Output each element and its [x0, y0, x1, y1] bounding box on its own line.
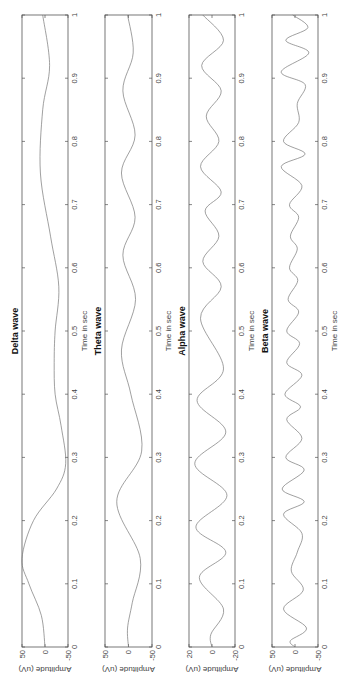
- waveform-trace: [117, 15, 142, 647]
- x-tick-label: 0.8: [320, 136, 329, 146]
- y-tick-label: 50: [101, 650, 110, 658]
- x-tick-label: 0.2: [237, 515, 246, 525]
- x-tick-label: 0: [320, 645, 329, 649]
- y-tick-label: 50: [268, 650, 277, 658]
- x-tick-label: 0.7: [320, 199, 329, 209]
- x-tick-label: 1: [154, 13, 163, 17]
- y-tick-label: -20: [231, 650, 240, 661]
- x-tick-label: 0.8: [154, 136, 163, 146]
- x-tick-label: 0.6: [320, 263, 329, 273]
- x-tick-label: 0.9: [237, 73, 246, 83]
- x-tick-label: 0.5: [154, 326, 163, 336]
- x-tick-label: 0.6: [154, 263, 163, 273]
- x-tick-label: 0.5: [70, 326, 79, 336]
- x-axis-label: Time in sec: [330, 311, 339, 352]
- x-tick-label: 0.5: [237, 326, 246, 336]
- x-tick-label: 0.9: [154, 73, 163, 83]
- panel-theta-wave: Time in sec Amplitude (uV) 00.10.20.30.4…: [93, 13, 173, 674]
- waveform-trace: [22, 15, 66, 647]
- x-tick-label: 0.1: [320, 579, 329, 589]
- x-tick-label: 1: [237, 13, 246, 17]
- y-tick-label: 20: [185, 650, 194, 658]
- axes-box: [105, 15, 152, 647]
- x-tick-label: 0.3: [237, 452, 246, 462]
- x-tick-label: 0.9: [70, 73, 79, 83]
- x-axis-label: Time in sec: [80, 311, 89, 352]
- rotated-plot-group: Time in sec Amplitude (uV) 00.10.20.30.4…: [10, 13, 339, 674]
- x-tick-label: 0.7: [237, 199, 246, 209]
- y-axis-label: Amplitude (uV): [185, 665, 238, 674]
- x-tick-label: 0.4: [154, 389, 163, 399]
- x-tick-label: 0.5: [320, 326, 329, 336]
- x-tick-label: 0: [154, 645, 163, 649]
- rotated-chart-canvas: Time in sec Amplitude (uV) 00.10.20.30.4…: [0, 0, 350, 690]
- x-tick-label: 0.3: [320, 452, 329, 462]
- y-axis-label: Amplitude (uV): [268, 665, 321, 674]
- x-tick-label: 0.6: [70, 263, 79, 273]
- panel-delta-wave: Time in sec Amplitude (uV) 00.10.20.30.4…: [10, 13, 89, 674]
- x-tick-label: 0.4: [70, 389, 79, 399]
- x-axis-label: Time in sec: [247, 311, 256, 352]
- x-axis-label: Time in sec: [164, 311, 173, 352]
- x-tick-label: 0.3: [154, 452, 163, 462]
- axes-box: [22, 15, 68, 647]
- panel-beta-wave: Time in sec Amplitude (uV) 00.10.20.30.4…: [260, 13, 339, 674]
- y-tick-label: 50: [18, 650, 27, 658]
- y-tick-label: 0: [124, 650, 133, 654]
- x-tick-label: 0.7: [154, 199, 163, 209]
- x-tick-label: 0.9: [320, 73, 329, 83]
- panel-title: Theta wave: [93, 307, 103, 356]
- x-tick-label: 0: [237, 645, 246, 649]
- panel-title: Delta wave: [10, 308, 20, 355]
- y-tick-label: 0: [291, 650, 300, 654]
- x-tick-label: 0.4: [237, 389, 246, 399]
- x-tick-label: 0.7: [70, 199, 79, 209]
- y-tick-label: 0: [208, 650, 217, 654]
- y-tick-label: -50: [314, 650, 323, 661]
- x-tick-label: 0.2: [154, 515, 163, 525]
- eeg-waves-figure: Time in sec Amplitude (uV) 00.10.20.30.4…: [0, 0, 350, 690]
- x-tick-label: 0: [70, 645, 79, 649]
- panel-alpha-wave: Time in sec Amplitude (uV) 00.10.20.30.4…: [177, 13, 256, 674]
- x-tick-label: 0.8: [70, 136, 79, 146]
- x-tick-label: 0.1: [154, 579, 163, 589]
- x-tick-label: 0.8: [237, 136, 246, 146]
- y-tick-label: -50: [148, 650, 157, 661]
- x-tick-label: 1: [70, 13, 79, 17]
- x-tick-label: 0.1: [70, 579, 79, 589]
- y-axis-label: Amplitude (uV): [18, 665, 71, 674]
- waveform-trace: [281, 15, 309, 647]
- x-tick-label: 0.1: [237, 579, 246, 589]
- x-tick-label: 0.2: [70, 515, 79, 525]
- axes-box: [189, 15, 235, 647]
- x-tick-label: 0.2: [320, 515, 329, 525]
- x-tick-label: 0.3: [70, 452, 79, 462]
- y-axis-label: Amplitude (uV): [102, 665, 155, 674]
- x-tick-label: 0.6: [237, 263, 246, 273]
- x-tick-label: 1: [320, 13, 329, 17]
- y-tick-label: 0: [41, 650, 50, 654]
- panel-title: Beta wave: [260, 309, 270, 353]
- waveform-trace: [195, 15, 227, 647]
- axes-box: [272, 15, 318, 647]
- y-tick-label: -50: [64, 650, 73, 661]
- x-tick-label: 0.4: [320, 389, 329, 399]
- panel-title: Alpha wave: [177, 306, 187, 356]
